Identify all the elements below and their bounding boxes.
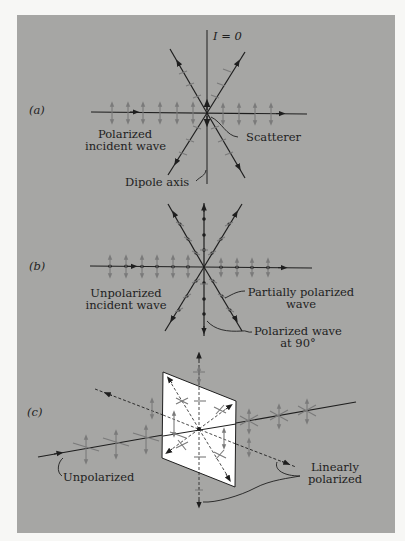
partially-polarized-label-2: wave [246, 298, 356, 310]
panel-a-diagram [91, 30, 307, 184]
dipole-axis-label: Dipole axis [125, 176, 189, 188]
scattered-ray [168, 113, 207, 175]
panel-c-label: (c) [27, 406, 42, 418]
scattered-ray [207, 52, 245, 113]
polarized-90-label-2: at 90° [252, 337, 344, 349]
panel-b-diagram [90, 203, 312, 336]
linearly-polarized-label-2: polarized [300, 473, 370, 485]
scattered-ray [170, 49, 207, 113]
polarized-incident-label-2: incident wave [85, 140, 165, 152]
unpolarized-incident-label-2: incident wave [84, 299, 168, 311]
scatterer-label: Scatterer [246, 131, 301, 143]
incident-beam-line [91, 112, 307, 114]
intensity-zero-label: I = 0 [213, 30, 242, 42]
unpolarized-label: Unpolarized [63, 471, 134, 483]
panel-b-label: (b) [29, 260, 45, 272]
panel-a-label: (a) [29, 104, 45, 116]
